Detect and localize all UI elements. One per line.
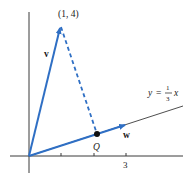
vector-w-label: w	[123, 130, 130, 140]
vector-v	[29, 28, 60, 156]
perpendicular-dashed-line	[61, 27, 97, 134]
equation-denominator: 3	[166, 95, 170, 103]
vector-v-label: v	[44, 49, 49, 59]
projection-diagram: (1, 4) v w Q 3 y = 1 3 x	[0, 0, 192, 181]
equation-lhs: y	[147, 88, 153, 98]
line-equation-label: y = 1 3 x	[147, 84, 179, 103]
x-tick-label-3: 3	[123, 160, 128, 170]
equation-numerator: 1	[166, 84, 170, 92]
point-q	[94, 131, 100, 137]
equation-var: x	[173, 88, 179, 98]
vector-w	[29, 125, 125, 156]
equation-equals: =	[156, 88, 161, 98]
point-q-label: Q	[93, 142, 100, 152]
point-label: (1, 4)	[58, 9, 79, 20]
